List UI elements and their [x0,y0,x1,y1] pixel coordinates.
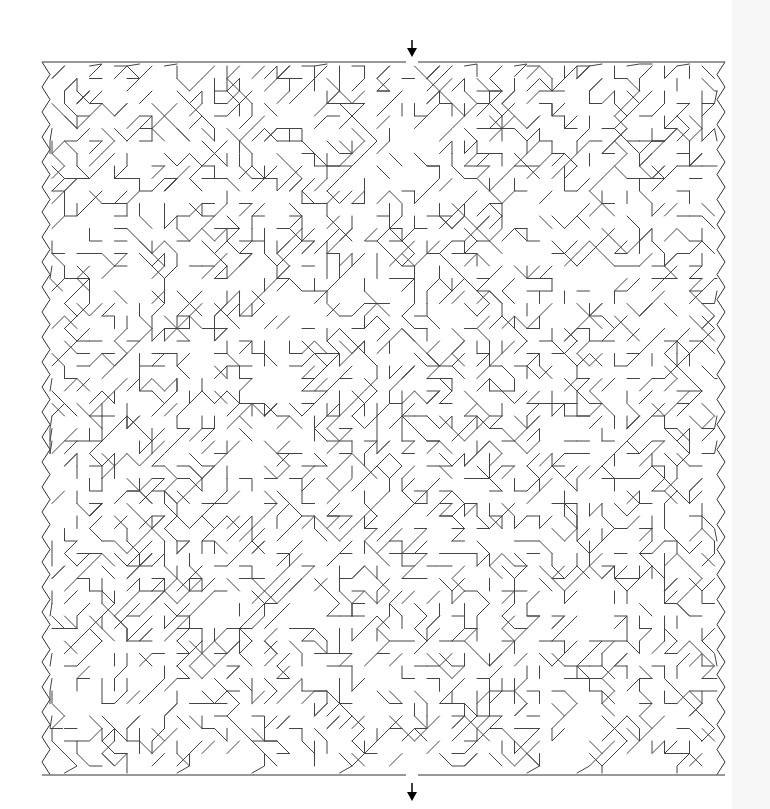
entrance-arrow-icon [407,40,417,57]
maze-walls [50,64,717,773]
maze-canvas [0,0,770,809]
maze-puzzle [0,0,770,809]
exit-arrow-icon [407,783,417,801]
page-margin-strip [732,0,770,809]
maze-border [42,62,725,775]
